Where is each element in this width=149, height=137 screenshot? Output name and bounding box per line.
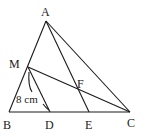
label-C: C [127,116,135,130]
geometry-diagram: A M F B D E C 8 cm [0,0,149,137]
label-D: D [45,118,54,132]
label-B: B [3,118,11,132]
segment-MD [28,67,50,112]
measurement-label: 8 cm [16,93,38,105]
label-M: M [9,57,20,71]
label-F: F [77,77,84,91]
label-E: E [85,118,92,132]
segment-AE [46,21,89,112]
label-A: A [41,5,50,19]
segment-AC [46,21,130,112]
